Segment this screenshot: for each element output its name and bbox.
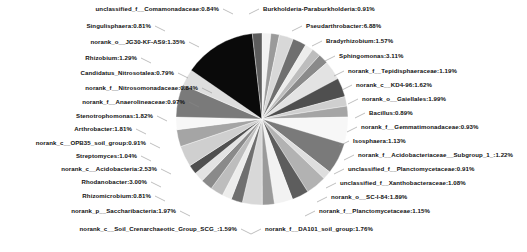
- label-leader-line: [241, 229, 251, 234]
- label-leader-line: [136, 129, 146, 134]
- label-leader-line: [151, 182, 161, 187]
- pie-slice-label: norank_o__SC-I-84:1.89%: [331, 193, 407, 201]
- pie-slice-label: norank_f__Anaerolineaceae:0.97%: [0, 98, 185, 106]
- pie-slice-label: Bradyrhizobium:1.57%: [326, 37, 393, 45]
- pie-slice-label: unclassified_f__Planctomycetaceae:0.91%: [348, 165, 474, 173]
- label-leader-line: [305, 211, 315, 216]
- pie-chart-figure: unclassified_f__Comamonadaceae:0.84%Sing…: [0, 0, 527, 252]
- pie-slice-label: Arthrobacter:1.81%: [0, 125, 132, 133]
- pie-slice-label: norank_o__JG30-KF-AS9:1.35%: [0, 38, 185, 46]
- label-leader-line: [249, 9, 259, 14]
- pie-slice-label: norank_c__OPB35_soil_group:0.91%: [0, 139, 146, 147]
- pie-slice-label: Rhodanobacter:3.00%: [0, 178, 147, 186]
- pie-slice-label: Candidatus_Nitrosotalea:0.79%: [0, 69, 174, 77]
- label-leader-line: [326, 183, 336, 188]
- pie-slice-label: Stenotrophomonas:1.82%: [0, 112, 153, 120]
- pie-slice-label: norank_p__Saccharibacteria:1.97%: [0, 207, 176, 215]
- pie-slice-label: unclassified_f__Xanthobacteraceae:1.08%: [340, 179, 466, 187]
- pie-slice-label: Pseudarthrobacter:6.88%: [306, 22, 381, 30]
- label-leader-line: [334, 71, 344, 76]
- label-leader-line: [150, 143, 160, 148]
- pie-slice-label: Rhizobium:1.29%: [0, 54, 137, 62]
- label-leader-line: [157, 116, 167, 121]
- label-leader-line: [317, 197, 327, 202]
- label-leader-line: [178, 73, 188, 78]
- label-leader-line: [141, 58, 151, 63]
- pie-slice-label: Burkholderia-Paraburkholderia:0.91%: [263, 5, 375, 13]
- label-leader-line: [325, 56, 335, 61]
- label-leader-line: [312, 41, 322, 46]
- label-leader-line: [344, 155, 354, 160]
- label-leader-line: [348, 99, 358, 104]
- pie-slice-label: Isosphaera:1.13%: [353, 137, 406, 145]
- label-leader-line: [223, 9, 233, 14]
- pie-slice-label: norank_c__Soil_Crenarchaeotic_Group_SCG_…: [0, 225, 237, 233]
- pie-slice-label: norank_f__DA101_soil_group:1.76%: [265, 225, 373, 233]
- label-leader-line: [155, 26, 165, 31]
- pie-slice-label: Streptomyces:1.04%: [0, 152, 137, 160]
- pie-slice-label: norank_f__Nitrosomonadaceae:0.84%: [0, 84, 198, 92]
- label-leader-line: [155, 196, 165, 201]
- label-leader-line: [189, 42, 199, 47]
- pie-slice-label: norank_f__Planctomycetaceae:1.15%: [319, 207, 430, 215]
- pie-slice-label: Singulisphaera:0.81%: [0, 22, 151, 30]
- pie-slice-label: unclassified_f__Comamonadaceae:0.84%: [0, 5, 219, 13]
- label-leader-line: [141, 156, 151, 161]
- pie-slice-label: norank_f__Gemmatimonadaceae:0.93%: [361, 123, 478, 131]
- label-leader-line: [347, 127, 357, 132]
- pie-slice-label: norank_f__Tepidisphaeraceae:1.19%: [348, 67, 457, 75]
- pie-slice-label: Sphingomonas:3.11%: [339, 52, 403, 60]
- pie-slice-label: norank_o__Gaiellales:1.99%: [362, 95, 446, 103]
- label-leader-line: [180, 211, 190, 216]
- label-leader-line: [292, 26, 302, 31]
- label-leader-line: [251, 229, 261, 234]
- pie-slice-label: norank_c__KD4-96:1.62%: [356, 81, 432, 89]
- pie-slice-label: Bacillus:0.89%: [369, 109, 413, 117]
- pie-slice-label: Rhizomicrobium:0.81%: [0, 192, 151, 200]
- label-leader-line: [342, 85, 352, 90]
- label-leader-line: [161, 169, 171, 174]
- pie-slice-label: norank_c__Acidobacteria:2.53%: [0, 165, 157, 173]
- label-leader-line: [334, 169, 344, 174]
- pie-slice-label: norank_f__Acidobacteriaceae__Subgroup_1_…: [358, 151, 513, 159]
- label-leader-line: [355, 113, 365, 118]
